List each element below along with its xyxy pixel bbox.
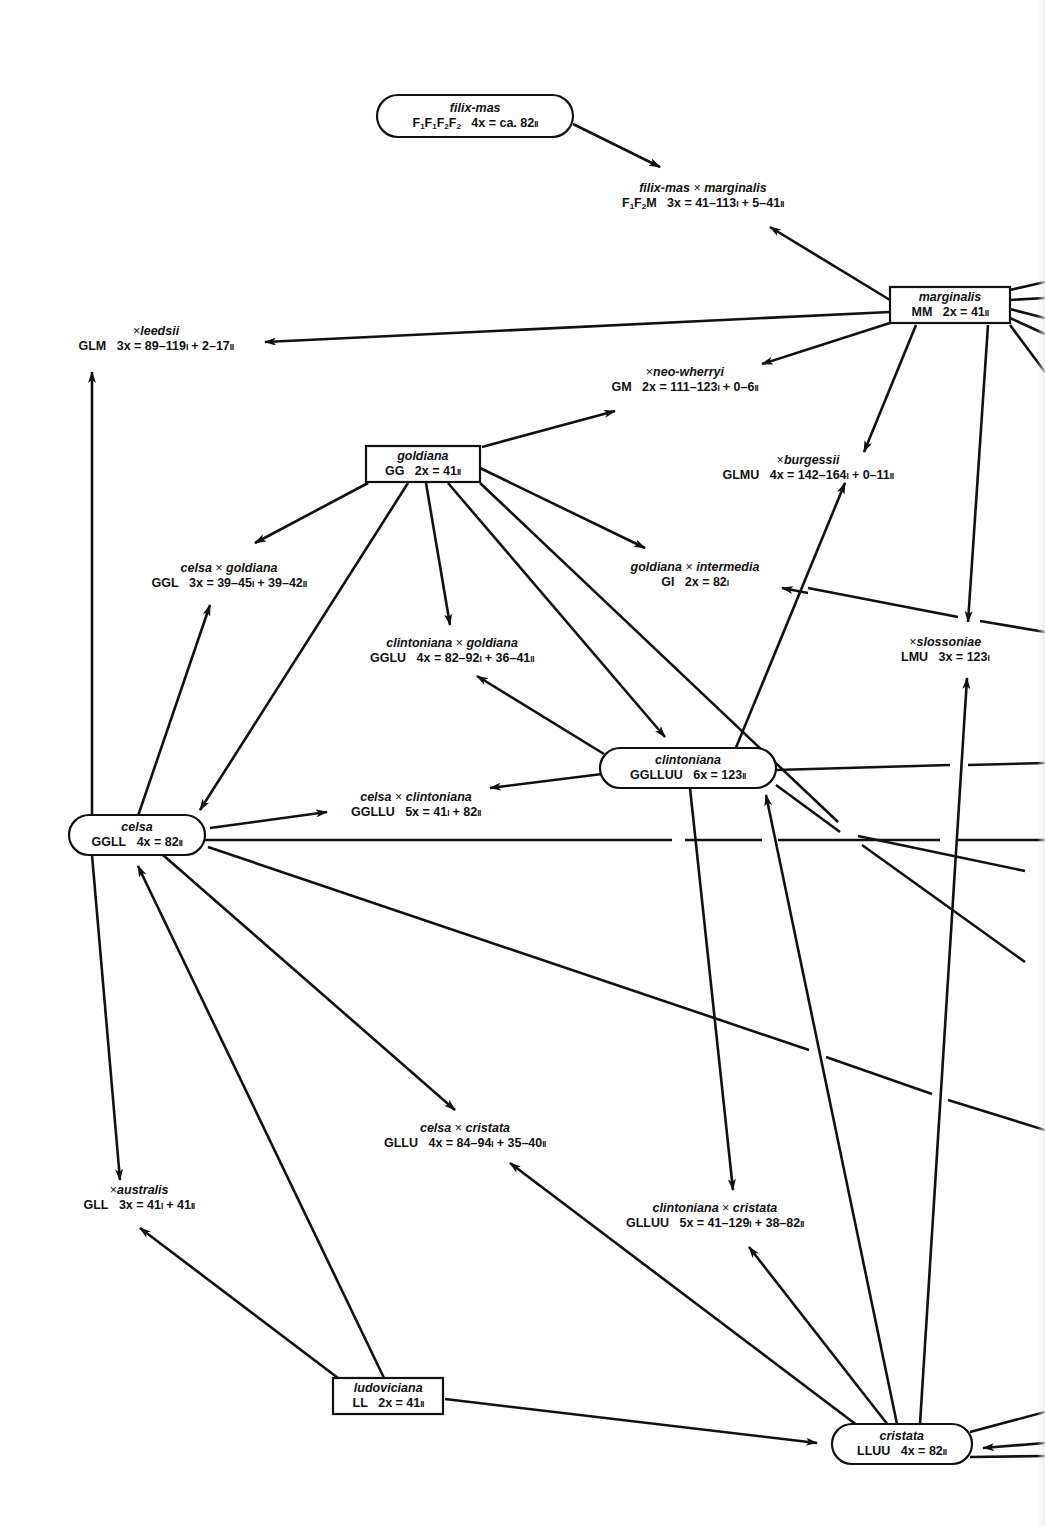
genome-formula: GI 2x = 82I bbox=[631, 575, 760, 591]
cross-edge bbox=[255, 483, 368, 543]
hybrid-node-clintoniana-x-cristata: clintoniana × cristataGLLUU 5x = 41–129I… bbox=[626, 1201, 804, 1232]
cross-edge bbox=[210, 812, 327, 828]
cross-edge bbox=[265, 312, 890, 342]
taxon-name: ×neo-wherryi bbox=[612, 365, 759, 380]
taxon-name: ×leedsii bbox=[79, 324, 234, 339]
species-node-clintoniana: clintonianaGGLLUU 6x = 123II bbox=[630, 753, 746, 784]
cross-edge bbox=[138, 866, 384, 1378]
cross-edge bbox=[968, 763, 1045, 765]
genome-formula: GGLU 4x = 82–92I + 36–41II bbox=[370, 651, 534, 667]
genome-formula: LMU 3x = 123I bbox=[901, 650, 989, 666]
cross-edge bbox=[490, 774, 602, 788]
taxon-name: celsa × cristata bbox=[384, 1121, 546, 1136]
hybrid-node-filix-mas-x-marginalis: filix-mas × marginalisF1F2M 3x = 41–113I… bbox=[622, 181, 784, 212]
cross-edge bbox=[573, 124, 660, 167]
species-node-celsa: celsaGGLL 4x = 82II bbox=[92, 820, 183, 851]
cross-edge bbox=[482, 411, 615, 447]
cross-edge bbox=[983, 1443, 1045, 1448]
taxon-name: celsa × goldiana bbox=[152, 561, 307, 576]
hybrid-node-slossoniae: ×slossoniaeLMU 3x = 123I bbox=[901, 635, 989, 666]
taxon-name: cristata bbox=[857, 1429, 947, 1444]
species-node-marginalis: marginalisMM 2x = 41II bbox=[912, 290, 989, 321]
cross-edge bbox=[766, 795, 897, 1424]
cross-edge bbox=[140, 1228, 338, 1378]
cross-edge bbox=[208, 847, 809, 1050]
taxon-boxes-layer bbox=[69, 95, 1010, 1464]
hybrid-node-celsa-x-cristata: celsa × cristataGLLU 4x = 84–94I + 35–40… bbox=[384, 1121, 546, 1152]
genome-formula: GGLLUU 6x = 123II bbox=[630, 768, 746, 784]
cross-edge bbox=[948, 1100, 1045, 1130]
cross-edge bbox=[826, 1057, 932, 1094]
hybrid-node-clintoniana-x-goldiana: clintoniana × goldianaGGLU 4x = 82–92I +… bbox=[370, 636, 534, 667]
taxon-name: marginalis bbox=[912, 290, 989, 305]
genome-formula: GM 2x = 111–123I + 0–6II bbox=[612, 380, 759, 396]
genome-formula: LLUU 4x = 82II bbox=[857, 1444, 947, 1460]
taxon-name: ×slossoniae bbox=[901, 635, 989, 650]
genome-formula: GLMU 4x = 142–164I + 0–11II bbox=[723, 468, 894, 484]
cross-edge bbox=[735, 483, 845, 750]
cross-edge bbox=[163, 855, 455, 1110]
cross-edge bbox=[770, 227, 890, 300]
taxon-name: ×australis bbox=[84, 1183, 195, 1198]
genome-formula: F1F2M 3x = 41–113I + 5–41II bbox=[622, 196, 784, 212]
hybrid-node-australis: ×australisGLL 3x = 41I + 41II bbox=[84, 1183, 195, 1214]
taxon-name: filix-mas bbox=[413, 101, 538, 116]
taxon-name: celsa bbox=[92, 820, 183, 835]
cross-edge bbox=[864, 325, 916, 452]
genome-formula: GLLUU 5x = 41–129I + 38–82II bbox=[626, 1216, 804, 1232]
genome-formula: GG 2x = 41II bbox=[385, 464, 461, 480]
hybrid-node-celsa-x-clintoniana: celsa × clintonianaGGLLU 5x = 41I + 82II bbox=[351, 790, 481, 821]
cross-edge bbox=[92, 855, 120, 1180]
cross-edge bbox=[970, 1412, 1045, 1432]
page-edge-shadow bbox=[1037, 0, 1045, 1526]
hybrid-node-burgessii: ×burgessiiGLMU 4x = 142–164I + 0–11II bbox=[723, 453, 894, 484]
taxon-name: clintoniana bbox=[630, 753, 746, 768]
taxon-name: clintoniana × cristata bbox=[626, 1201, 804, 1216]
species-node-ludoviciana: ludovicianaLL 2x = 41II bbox=[353, 1381, 424, 1412]
cross-edge bbox=[749, 1247, 888, 1425]
species-node-goldiana: goldianaGG 2x = 41II bbox=[385, 449, 461, 480]
genome-formula: GGLL 4x = 82II bbox=[92, 835, 183, 851]
cross-edge bbox=[968, 325, 988, 622]
cross-edge bbox=[762, 322, 893, 364]
genome-formula: GGLLU 5x = 41I + 82II bbox=[351, 805, 481, 821]
cross-edge bbox=[448, 483, 665, 737]
genome-formula: MM 2x = 41II bbox=[912, 305, 989, 321]
cross-edge bbox=[477, 676, 604, 754]
cross-edge bbox=[445, 1399, 817, 1443]
taxon-name: clintoniana × goldiana bbox=[370, 636, 534, 651]
genome-formula: F1F1F2F2 4x = ca. 82II bbox=[413, 116, 538, 132]
species-node-filix-mas: filix-masF1F1F2F2 4x = ca. 82II bbox=[413, 101, 538, 132]
cross-edge bbox=[776, 765, 950, 770]
cross-edge bbox=[980, 621, 1045, 632]
taxon-name: goldiana bbox=[385, 449, 461, 464]
taxon-name: celsa × clintoniana bbox=[351, 790, 481, 805]
hybrid-node-leedsii: ×leedsiiGLM 3x = 89–119I + 2–17II bbox=[79, 324, 234, 355]
cross-edge bbox=[862, 845, 1025, 962]
genome-formula: GGL 3x = 39–45I + 39–42II bbox=[152, 576, 307, 592]
hybridization-diagram bbox=[0, 0, 1045, 1526]
genome-formula: LL 2x = 41II bbox=[353, 1396, 424, 1412]
taxon-name: goldiana × intermedia bbox=[631, 560, 760, 575]
cross-edge bbox=[970, 1456, 1045, 1457]
cross-edge bbox=[426, 483, 450, 625]
cross-edge bbox=[690, 788, 733, 1190]
cross-edge bbox=[808, 588, 958, 617]
taxon-name: ×burgessii bbox=[723, 453, 894, 468]
genome-formula: GLLU 4x = 84–94I + 35–40II bbox=[384, 1136, 546, 1152]
taxon-name: ludoviciana bbox=[353, 1381, 424, 1396]
hybrid-node-celsa-x-goldiana: celsa × goldianaGGL 3x = 39–45I + 39–42I… bbox=[152, 561, 307, 592]
cross-edge bbox=[138, 605, 210, 816]
taxon-name: filix-mas × marginalis bbox=[622, 181, 784, 196]
genome-formula: GLL 3x = 41I + 41II bbox=[84, 1198, 195, 1214]
cross-edge bbox=[920, 678, 967, 1424]
species-node-cristata: cristataLLUU 4x = 82II bbox=[857, 1429, 947, 1460]
cross-edge bbox=[782, 588, 808, 593]
hybrid-node-neo-wherryi: ×neo-wherryiGM 2x = 111–123I + 0–6II bbox=[612, 365, 759, 396]
hybrid-node-goldiana-x-intermedia: goldiana × intermediaGI 2x = 82I bbox=[631, 560, 760, 591]
genome-formula: GLM 3x = 89–119I + 2–17II bbox=[79, 339, 234, 355]
